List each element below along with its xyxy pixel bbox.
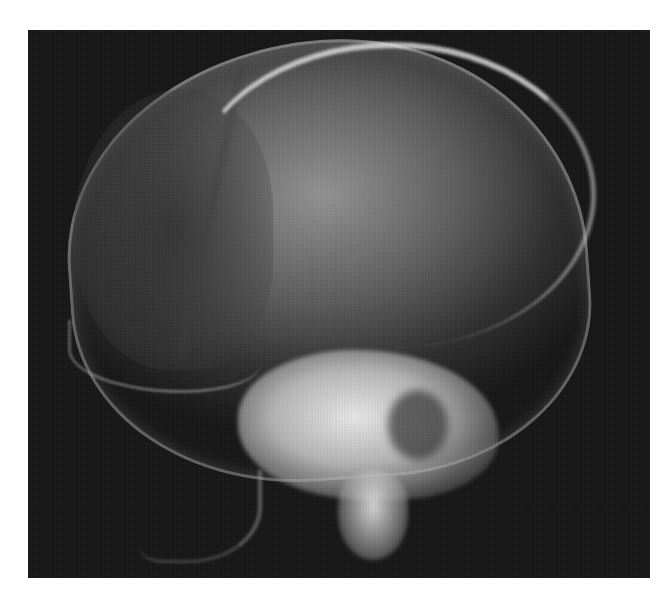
cervical-spine [338,470,408,560]
film-grain [28,30,650,578]
calvarial-rim [188,42,596,348]
orbital-roof-line [68,320,261,393]
skull-base-petrous [238,350,498,500]
cranial-vault [53,30,602,498]
radiograph-image [28,30,650,578]
coronal-suture [177,63,245,358]
mandible [138,470,262,563]
frontal-region [73,90,273,370]
mastoid-air-cells [388,390,448,460]
